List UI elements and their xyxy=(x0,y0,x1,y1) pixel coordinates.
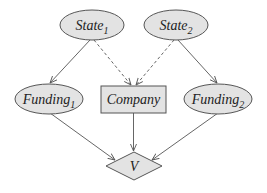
edge-state1-company xyxy=(94,40,131,85)
node-funding2: Funding2 xyxy=(184,84,252,114)
node-v: V xyxy=(106,152,162,180)
edge-funding2-v xyxy=(152,113,218,160)
node-company: Company xyxy=(101,86,166,113)
v-label: V xyxy=(130,159,140,174)
influence-diagram: State1 State2 Funding1 Company Funding2 … xyxy=(0,0,267,193)
company-label: Company xyxy=(107,92,161,107)
edge-funding1-v xyxy=(50,113,115,160)
edge-state1-funding1 xyxy=(50,40,90,83)
node-state2: State2 xyxy=(144,10,208,40)
edge-state2-company xyxy=(136,40,174,85)
node-state1: State1 xyxy=(60,10,124,40)
edge-state2-funding2 xyxy=(178,40,217,83)
node-funding1: Funding1 xyxy=(15,84,83,114)
